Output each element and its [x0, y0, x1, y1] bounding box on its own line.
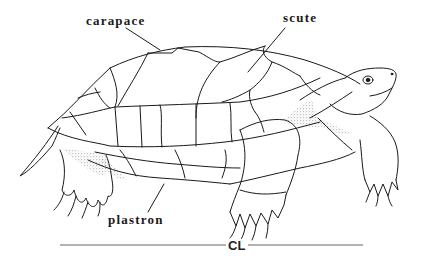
hind-leg-shading	[62, 148, 108, 176]
turtle-diagram: carapace scute plastron CL	[0, 0, 425, 261]
label-carapace: carapace	[86, 14, 145, 27]
label-scute: scute	[283, 11, 317, 24]
label-plastron: plastron	[108, 213, 164, 226]
turtle-illustration	[0, 0, 425, 261]
neck-shading	[282, 100, 320, 128]
neck	[300, 78, 345, 100]
carapace-leader	[126, 28, 160, 50]
label-cl: CL	[226, 239, 247, 252]
shoulder-shading	[318, 118, 352, 135]
tail	[20, 126, 60, 176]
front-leg	[240, 119, 300, 195]
plastron-leader	[148, 184, 164, 212]
far-front-leg	[370, 116, 398, 180]
